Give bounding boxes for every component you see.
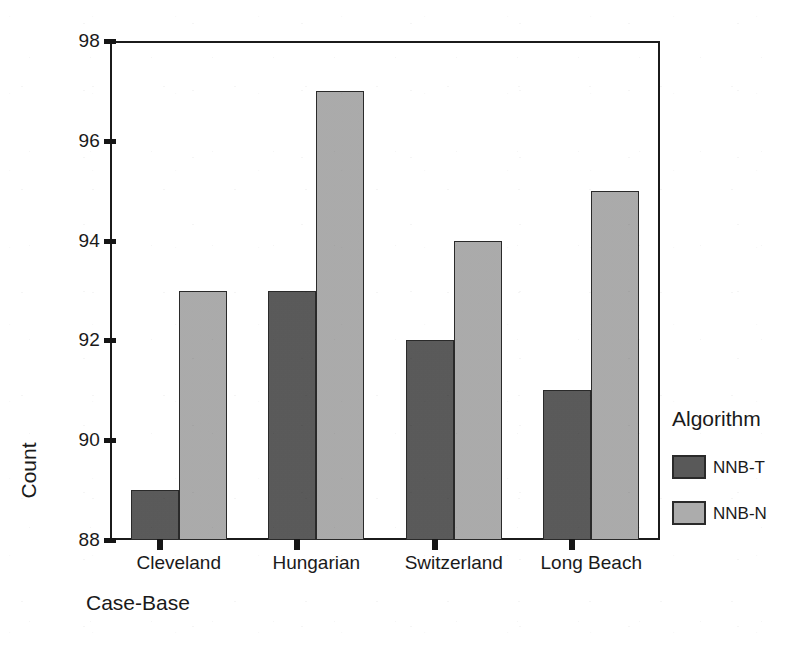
y-axis-tick-label: 96: [60, 131, 100, 150]
legend: Algorithm NNB-TNNB-N: [672, 408, 800, 547]
bar-long-beach-nnb-n: [591, 191, 639, 540]
y-axis-tick-label: 94: [60, 231, 100, 250]
bar-switzerland-nnb-t: [406, 340, 454, 540]
x-axis-tick-label: Hungarian: [248, 552, 386, 574]
y-axis-tick: [104, 338, 116, 343]
y-axis-tick-label: 98: [60, 31, 100, 50]
legend-item-label: NNB-T: [713, 459, 765, 476]
x-axis-tick-label: Switzerland: [385, 552, 523, 574]
y-axis-tick: [104, 39, 116, 44]
bar-hungarian-nnb-t: [268, 291, 316, 541]
legend-item: NNB-T: [672, 455, 800, 479]
legend-item: NNB-N: [672, 501, 800, 525]
x-axis-tick-label: Cleveland: [110, 552, 248, 574]
x-axis-tick: [432, 539, 438, 550]
bar-cleveland-nnb-n: [179, 291, 227, 541]
bar-hungarian-nnb-n: [316, 91, 364, 540]
y-axis-tick-label: 92: [60, 330, 100, 349]
legend-entries: NNB-TNNB-N: [672, 455, 800, 525]
x-axis-tick-label: Long Beach: [523, 552, 661, 574]
y-axis-tick: [104, 538, 116, 543]
y-axis-tick: [104, 139, 116, 144]
legend-swatch-icon: [672, 455, 706, 479]
y-axis-tick-label: 90: [60, 430, 100, 449]
x-axis-tick: [569, 539, 575, 550]
y-axis-tick: [104, 438, 116, 443]
y-axis-tick-label: 88: [60, 530, 100, 549]
bar-switzerland-nnb-n: [454, 241, 502, 540]
bar-chart-figure: 889092949698 Count ClevelandHungarianSwi…: [0, 0, 801, 662]
legend-title: Algorithm: [672, 408, 800, 429]
legend-item-label: NNB-N: [713, 505, 767, 522]
legend-swatch-icon: [672, 501, 706, 525]
bar-cleveland-nnb-t: [131, 490, 179, 540]
y-axis-tick: [104, 239, 116, 244]
bar-long-beach-nnb-t: [543, 390, 591, 540]
y-axis-title: Count: [18, 421, 39, 521]
x-axis-tick: [294, 539, 300, 550]
x-axis-title: Case-Base: [86, 592, 190, 613]
x-axis-tick: [157, 539, 163, 550]
